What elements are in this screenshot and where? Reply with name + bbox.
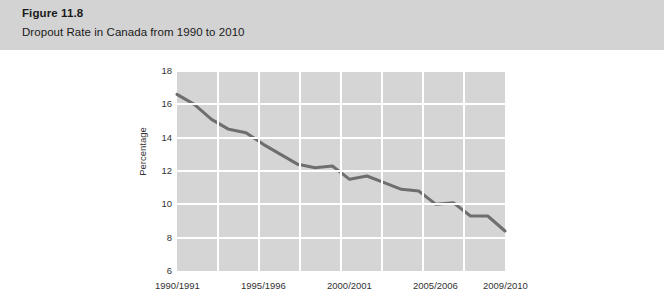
x-axis-tick-label: 2000/2001 (327, 280, 372, 291)
gridline-vertical (422, 71, 424, 271)
chart-region: Percentage 681012141618 1990/19911995/19… (0, 50, 664, 308)
y-axis-tick-label: 18 (146, 66, 172, 76)
y-axis-tick-label: 14 (146, 133, 172, 143)
y-axis-tick-label: 8 (146, 233, 172, 243)
figure-page: Figure 11.8 Dropout Rate in Canada from … (0, 0, 664, 308)
x-axis-tick-label: 2009/2010 (483, 280, 528, 291)
y-axis-tick-label: 10 (146, 199, 172, 209)
gridline-vertical (463, 71, 465, 271)
y-axis-tick-label: 6 (146, 266, 172, 276)
y-axis-ticks: 681012141618 (146, 50, 172, 308)
gridline-vertical (381, 71, 383, 271)
plot-area (177, 71, 505, 271)
gridline-vertical (340, 71, 342, 271)
x-axis-tick-label: 1990/1991 (155, 280, 200, 291)
x-axis-ticks: 1990/19911995/19962000/20012005/20062009… (0, 276, 664, 296)
gridline-vertical (258, 71, 260, 271)
gridline-vertical (217, 71, 219, 271)
y-axis-tick-label: 12 (146, 166, 172, 176)
figure-number: Figure 11.8 (22, 6, 664, 21)
gridline-vertical (299, 71, 301, 271)
x-axis-tick-label: 1995/1996 (241, 280, 286, 291)
y-axis-tick-label: 16 (146, 99, 172, 109)
x-axis-tick-label: 2005/2006 (413, 280, 458, 291)
figure-caption: Dropout Rate in Canada from 1990 to 2010 (22, 25, 664, 40)
figure-header: Figure 11.8 Dropout Rate in Canada from … (0, 0, 664, 50)
